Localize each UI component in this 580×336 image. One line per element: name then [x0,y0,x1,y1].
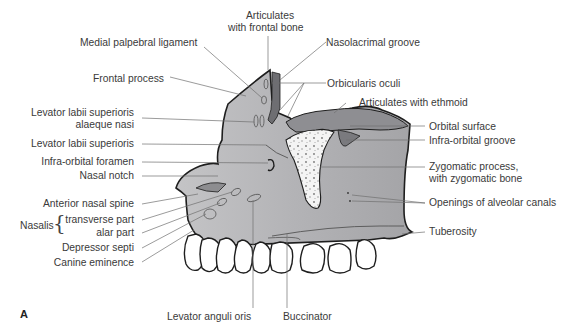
label-zygomatic-process-1: Zygomatic process, [429,161,518,173]
panel-letter: A [20,308,28,320]
alveolar-canal-2 [349,200,351,202]
label-levator-anguli-oris: Levator anguli oris [167,311,251,323]
label-zygomatic-process-2: with zygomatic bone [429,173,522,185]
maxilla-diagram: Articulates with frontal bone Medial pal… [0,0,580,336]
label-llsan-2: alaeque nasi [26,119,134,131]
label-infraorbital-foramen: Infra-orbital foramen [26,156,134,168]
label-articulates-frontal-1: Articulates [246,10,294,22]
label-transverse-part: transverse part [26,214,134,226]
label-infraorbital-groove: Infra-orbital groove [429,135,515,147]
label-nasal-notch: Nasal notch [26,170,134,182]
label-anterior-nasal-spine: Anterior nasal spine [26,198,134,210]
label-llsan-1: Levator labii superioris [26,107,134,119]
label-frontal-process: Frontal process [93,73,164,85]
label-articulates-ethmoid: Articulates with ethmoid [359,97,468,109]
label-orbicularis-oculi: Orbicularis oculi [327,78,400,90]
label-canine-eminence: Canine eminence [26,257,134,269]
label-tuberosity: Tuberosity [429,226,477,238]
label-articulates-frontal-2: with frontal bone [228,22,304,34]
alveolar-canal-1 [347,192,349,194]
label-alveolar-canals: Openings of alveolar canals [429,197,556,209]
label-depressor-septi: Depressor septi [26,242,134,254]
label-alar-part: alar part [26,227,134,239]
label-buccinator: Buccinator [283,311,332,323]
label-orbital-surface: Orbital surface [429,121,496,133]
label-nasolacrimal-groove: Nasolacrimal groove [326,37,420,49]
label-levator-labii-superioris: Levator labii superioris [26,138,134,150]
label-medial-palpebral-ligament: Medial palpebral ligament [80,37,197,49]
orbital-surface-shape [286,108,408,132]
